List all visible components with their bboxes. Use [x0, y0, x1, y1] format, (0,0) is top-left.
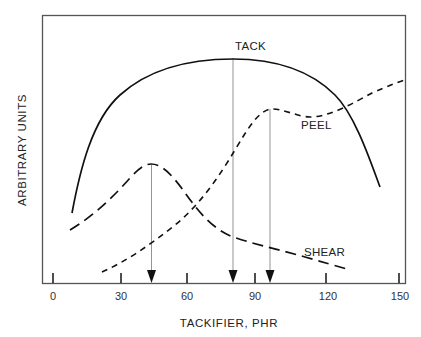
x-tick-label-60: 60 [181, 290, 193, 302]
x-tick-label-90: 90 [249, 290, 261, 302]
chart: 0 30 60 90 120 150 TACKIFIER, PHR ARBITR… [0, 0, 421, 337]
shear-max-arrowhead-icon [147, 270, 156, 283]
x-tick-label-120: 120 [319, 290, 337, 302]
shear-label: SHEAR [304, 246, 345, 258]
peel-max-arrowhead-icon [266, 270, 275, 283]
x-tick-label-150: 150 [391, 290, 409, 302]
x-axis-tick-labels: 0 30 60 90 120 150 [50, 290, 409, 302]
x-tick-label-0: 0 [50, 290, 56, 302]
peel-label: PEEL [301, 119, 332, 131]
tack-label: TACK [235, 40, 266, 52]
tack-curve [72, 59, 380, 213]
x-axis-title: TACKIFIER, PHR [180, 317, 278, 329]
x-axis-ticks [53, 273, 399, 283]
plot-frame [43, 16, 406, 284]
x-tick-label-30: 30 [115, 290, 127, 302]
y-axis-title: ARBITRARY UNITS [16, 94, 28, 206]
tack-max-arrowhead-icon [229, 270, 238, 283]
